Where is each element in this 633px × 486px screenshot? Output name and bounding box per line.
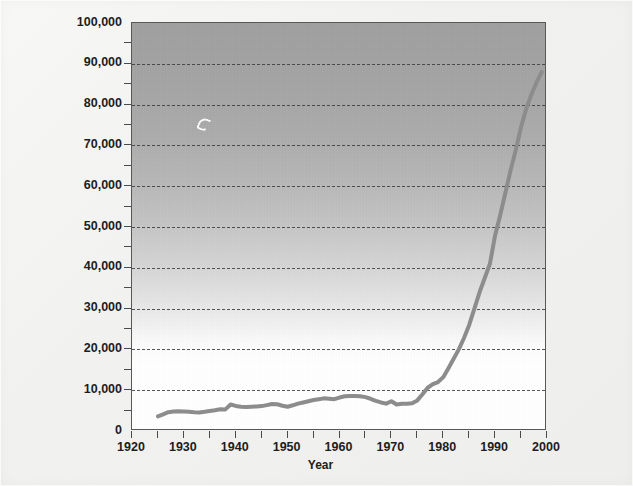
x-tick-label-1990: 1990 — [480, 441, 508, 454]
chart-page: 010,00020,00030,00040,00050,00060,00070,… — [0, 0, 633, 486]
x-tick-minor-1995 — [520, 431, 521, 438]
x-tick-label-1970: 1970 — [376, 441, 404, 454]
series-path-value — [158, 72, 542, 416]
y-tick-minor-5000 — [124, 410, 131, 411]
y-tick-label-100000: 100,000 — [77, 16, 122, 29]
y-tick-minor-15000 — [124, 369, 131, 370]
y-tick-minor-65000 — [124, 165, 131, 166]
x-tick-major-1920 — [131, 431, 132, 438]
y-tick-label-60000: 60,000 — [84, 179, 122, 192]
x-tick-minor-1975 — [416, 431, 417, 438]
y-tick-minor-95000 — [124, 42, 131, 43]
x-tick-minor-1955 — [313, 431, 314, 438]
x-tick-major-1990 — [494, 431, 495, 438]
y-tick-label-50000: 50,000 — [84, 220, 122, 233]
x-tick-minor-1935 — [209, 431, 210, 438]
x-tick-minor-1965 — [364, 431, 365, 438]
x-tick-label-1980: 1980 — [428, 441, 456, 454]
y-tick-minor-85000 — [124, 83, 131, 84]
y-tick-label-30000: 30,000 — [84, 301, 122, 314]
x-axis-title-text: Year — [308, 458, 333, 472]
y-tick-label-40000: 40,000 — [84, 260, 122, 273]
y-tick-label-10000: 10,000 — [84, 383, 122, 396]
x-tick-label-1920: 1920 — [117, 441, 145, 454]
x-tick-major-1930 — [183, 431, 184, 438]
x-tick-label-1950: 1950 — [273, 441, 301, 454]
x-tick-major-1940 — [235, 431, 236, 438]
x-tick-label-2000: 2000 — [532, 441, 560, 454]
y-tick-minor-55000 — [124, 206, 131, 207]
x-tick-major-1960 — [339, 431, 340, 438]
x-axis-title: Year — [0, 458, 633, 472]
x-tick-major-1980 — [442, 431, 443, 438]
y-axis-labels: 010,00020,00030,00040,00050,00060,00070,… — [0, 0, 122, 486]
y-tick-label-0: 0 — [115, 424, 122, 437]
x-tick-major-1950 — [287, 431, 288, 438]
x-tick-major-1970 — [390, 431, 391, 438]
data-series-line — [132, 23, 546, 430]
y-tick-minor-45000 — [124, 246, 131, 247]
y-tick-label-90000: 90,000 — [84, 56, 122, 69]
y-tick-label-70000: 70,000 — [84, 138, 122, 151]
y-tick-label-20000: 20,000 — [84, 342, 122, 355]
plot-area — [131, 22, 546, 430]
y-tick-minor-25000 — [124, 328, 131, 329]
x-tick-label-1960: 1960 — [325, 441, 353, 454]
x-tick-minor-1945 — [261, 431, 262, 438]
x-tick-minor-1925 — [157, 431, 158, 438]
y-tick-minor-35000 — [124, 287, 131, 288]
y-tick-label-80000: 80,000 — [84, 97, 122, 110]
x-tick-minor-1985 — [468, 431, 469, 438]
x-tick-label-1930: 1930 — [169, 441, 197, 454]
x-tick-major-2000 — [546, 431, 547, 438]
x-tick-label-1940: 1940 — [221, 441, 249, 454]
y-tick-minor-75000 — [124, 124, 131, 125]
